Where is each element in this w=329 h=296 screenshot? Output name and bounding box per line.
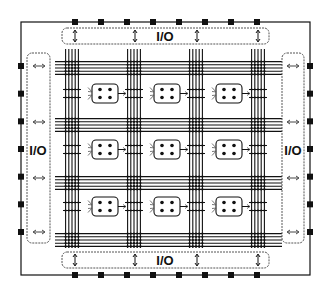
switch-point [201, 127, 203, 129]
switch-point [68, 245, 70, 247]
switch-point [254, 70, 256, 72]
connection-point [127, 96, 129, 98]
connection-point [127, 201, 129, 203]
connection-point [263, 201, 265, 203]
switch-point [195, 61, 197, 63]
connection-point [133, 88, 135, 90]
switch-point [263, 182, 265, 184]
switch-point [257, 185, 259, 187]
switch-point [263, 64, 265, 66]
switch-point [192, 124, 194, 126]
switch-point [77, 124, 79, 126]
switch-point [201, 239, 203, 241]
connection-point [251, 152, 253, 154]
connection-point [257, 201, 259, 203]
switch-point [77, 176, 79, 178]
switch-point [133, 67, 135, 69]
io-label-left: I/O [29, 143, 46, 158]
switch-point [68, 121, 70, 123]
switch-point [130, 236, 132, 238]
switch-point [254, 64, 256, 66]
switch-point [139, 130, 141, 132]
switch-point [189, 124, 191, 126]
connection-point [136, 152, 138, 154]
switch-point [77, 127, 79, 129]
switch-point [260, 182, 262, 184]
switch-point [139, 121, 141, 123]
switch-point [136, 176, 138, 178]
switch-point [189, 127, 191, 129]
io-block-bottom: I/O [156, 253, 173, 268]
pin-left [18, 63, 24, 69]
switch-point [77, 245, 79, 247]
switch-point [254, 233, 256, 235]
switch-point [254, 124, 256, 126]
switch-point [195, 176, 197, 178]
switch-point [65, 118, 67, 120]
switch-point [133, 185, 135, 187]
connection-point [254, 201, 256, 203]
logic-blocks [88, 84, 250, 216]
connection-point [192, 96, 194, 98]
switch-point [130, 245, 132, 247]
connection-point [257, 209, 259, 211]
switch-point [133, 233, 135, 235]
connection-point [133, 201, 135, 203]
switch-point [189, 121, 191, 123]
switch-point [68, 176, 70, 178]
switch-point [68, 233, 70, 235]
logic-block-dot [232, 144, 236, 148]
switch-point [74, 179, 76, 181]
switch-point [198, 179, 200, 181]
switch-point [74, 188, 76, 190]
switch-point [68, 185, 70, 187]
switch-point [136, 64, 138, 66]
switch-point [254, 236, 256, 238]
switch-point [263, 70, 265, 72]
connection-point [127, 88, 129, 90]
connection-point [260, 209, 262, 211]
logic-block-dot [222, 144, 226, 148]
switch-point [65, 127, 67, 129]
switch-point [136, 239, 138, 241]
connection-point [195, 96, 197, 98]
switch-point [260, 233, 262, 235]
switch-point [192, 182, 194, 184]
pin-right [307, 146, 313, 152]
input-arrow-icon [212, 88, 216, 92]
switch-point [136, 233, 138, 235]
switch-point [254, 245, 256, 247]
connection-point [65, 209, 67, 211]
switch-point [133, 188, 135, 190]
switch-point [71, 182, 73, 184]
logic-block-dot [222, 209, 226, 213]
switch-point [192, 188, 194, 190]
switch-point [198, 124, 200, 126]
switch-point [195, 73, 197, 75]
switch-point [136, 245, 138, 247]
switch-point [139, 185, 141, 187]
switch-point [257, 179, 259, 181]
switch-point [198, 239, 200, 241]
switch-point [257, 188, 259, 190]
switch-point [251, 73, 253, 75]
switch-point [71, 188, 73, 190]
switch-point [136, 242, 138, 244]
switch-point [195, 182, 197, 184]
switch-point [201, 188, 203, 190]
switch-point [130, 239, 132, 241]
connection-point [201, 152, 203, 154]
connection-point [71, 201, 73, 203]
switch-point [74, 182, 76, 184]
connection-point [65, 144, 67, 146]
switch-point [192, 73, 194, 75]
switch-point [251, 176, 253, 178]
switch-point [263, 67, 265, 69]
switch-point [201, 176, 203, 178]
switch-point [195, 239, 197, 241]
switch-point [251, 242, 253, 244]
switch-point [201, 185, 203, 187]
switch-point [192, 61, 194, 63]
io-label-right: I/O [284, 143, 301, 158]
pin-bottom [124, 272, 130, 278]
